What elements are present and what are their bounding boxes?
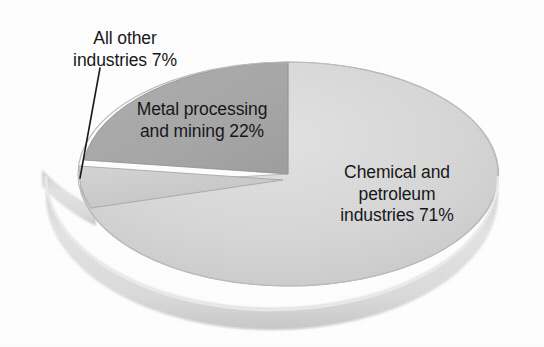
slice-label-metal-processing-mining: Metal processing and mining 22% (104, 99, 300, 142)
slice-label-all-other-industries: All other industries 7% (30, 28, 220, 71)
slice-label-chemical-petroleum: Chemical and petroleum industries 71% (302, 162, 492, 227)
pie-chart-figure: All other industries 7% Metal processing… (0, 0, 544, 347)
all-other-leader-line (80, 68, 100, 178)
